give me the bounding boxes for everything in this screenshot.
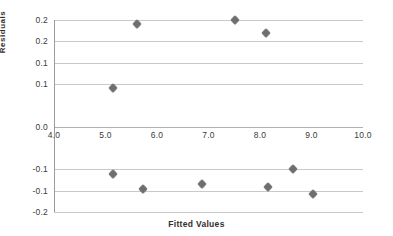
data-point-marker — [197, 179, 207, 189]
gridline — [54, 84, 363, 85]
gridline — [54, 41, 363, 42]
x-axis-tick-label: 4.0 — [36, 130, 72, 140]
data-point-marker — [108, 170, 118, 180]
plot-area — [54, 20, 363, 212]
data-point-marker — [230, 15, 240, 25]
gridline — [54, 127, 363, 128]
y-axis-tick-label: -0.1 — [18, 186, 48, 196]
y-axis-line — [54, 20, 55, 212]
y-axis-tick-label: 0.1 — [18, 79, 48, 89]
x-axis-tick-label: 5.0 — [88, 130, 124, 140]
x-axis-tick-label: 6.0 — [139, 130, 175, 140]
gridline — [54, 169, 363, 170]
x-axis-tick-label: 10.0 — [345, 130, 381, 140]
gridline — [54, 63, 363, 64]
gridline — [54, 20, 363, 21]
residual-scatter-chart: 0.20.20.10.10.0-0.1-0.1-0.2 4.05.06.07.0… — [0, 0, 393, 236]
y-axis-title: Residuals — [0, 0, 7, 72]
data-point-marker — [289, 164, 299, 174]
y-axis-tick-label: 0.1 — [18, 58, 48, 68]
y-axis-tick-label: 0.2 — [18, 36, 48, 46]
x-axis-title: Fitted Values — [0, 219, 393, 229]
y-axis-tick-label: -0.1 — [18, 164, 48, 174]
x-axis-tick-label: 9.0 — [294, 130, 330, 140]
data-point-marker — [261, 28, 271, 38]
gridline — [54, 212, 363, 213]
data-point-marker — [138, 184, 148, 194]
y-axis-tick-label: -0.2 — [18, 207, 48, 217]
x-axis-tick-label: 8.0 — [242, 130, 278, 140]
x-axis-tick-label: 7.0 — [191, 130, 227, 140]
y-axis-tick-label: 0.2 — [18, 15, 48, 25]
gridline — [54, 191, 363, 192]
